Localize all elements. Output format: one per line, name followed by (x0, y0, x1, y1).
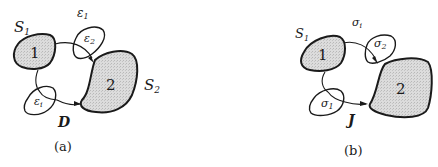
epsilon-1-label: ε1 (77, 6, 89, 21)
panel-a: S1 1 ε1 ε2 2 S2 εi D (a) (14, 6, 160, 154)
caption-a: (a) (54, 139, 72, 154)
set-s2-label: S2 (144, 76, 160, 95)
panel-b: S1 1 σi σ2 2 σ1 J (b) (295, 16, 432, 158)
region-1-label: 1 (30, 44, 40, 62)
path-j-label: J (345, 112, 356, 128)
set-s1-label: S1 (295, 26, 309, 43)
arrow-head-bottom-icon (360, 101, 368, 106)
epsilon-2-label: ε2 (84, 32, 95, 46)
region-1-label: 1 (318, 46, 328, 64)
region-2-label: 2 (106, 76, 116, 94)
sigma-1-label: σ1 (321, 97, 334, 111)
sigma-i-label: σi (352, 16, 363, 30)
sigma-2-label: σ2 (374, 37, 387, 51)
caption-b: (b) (344, 143, 362, 158)
path-d-arc-left (40, 92, 57, 100)
path-d-label: D (57, 114, 71, 130)
arrow-head-top-icon (88, 56, 94, 63)
diagram-canvas: S1 1 ε1 ε2 2 S2 εi D (a) S1 1 σi σ2 2 σ1… (0, 0, 438, 167)
region-2-label: 2 (396, 80, 406, 98)
set-s1-label: S1 (14, 18, 30, 37)
epsilon-i-label: εi (34, 95, 43, 109)
